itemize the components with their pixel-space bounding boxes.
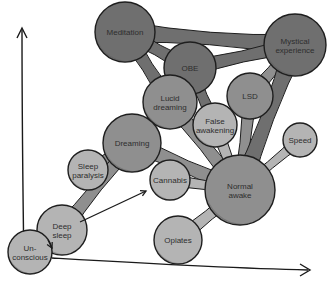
node-unconscious: Un-conscious xyxy=(8,230,52,274)
node-label: Mystical xyxy=(281,37,310,46)
node-dreaming: Dreaming xyxy=(103,114,161,172)
node-lsd: LSD xyxy=(227,73,273,119)
node-label: awakening xyxy=(196,126,234,135)
node-speed: Speed xyxy=(283,123,317,157)
node-label: Un- xyxy=(24,244,37,253)
node-normal-awake: Normalawake xyxy=(205,155,275,225)
node-label: experience xyxy=(275,46,315,55)
node-label: LSD xyxy=(242,92,258,101)
node-label: Deep xyxy=(52,222,72,231)
node-label: Sleep xyxy=(78,162,99,171)
node-label: Meditation xyxy=(107,28,144,37)
consciousness-states-diagram: MeditationMysticalexperienceOBELSDLucidd… xyxy=(0,0,328,285)
node-meditation: Meditation xyxy=(95,2,155,62)
node-cannabis: Cannabis xyxy=(150,160,190,200)
node-label: sleep xyxy=(52,231,72,240)
node-label: dreaming xyxy=(153,103,186,112)
node-sleep-paralysis: Sleepparalysis xyxy=(68,150,108,190)
node-label: Dreaming xyxy=(115,139,150,148)
node-label: conscious xyxy=(12,253,48,262)
node-label: OBE xyxy=(182,64,199,73)
node-false-awakening: Falseawakening xyxy=(193,103,237,147)
node-opiates: Opiates xyxy=(154,216,202,264)
node-label: Speed xyxy=(288,136,311,145)
node-label: False xyxy=(205,117,225,126)
node-label: awake xyxy=(228,191,252,200)
node-label: Opiates xyxy=(164,236,192,245)
node-label: Normal xyxy=(227,182,253,191)
node-mystical: Mysticalexperience xyxy=(264,14,326,76)
node-label: Lucid xyxy=(160,94,179,103)
node-label: paralysis xyxy=(72,171,104,180)
node-label: Cannabis xyxy=(153,176,187,185)
